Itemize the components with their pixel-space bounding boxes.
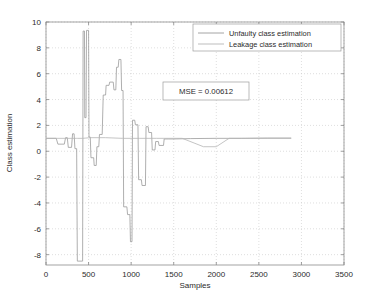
x-tick-label: 3500 <box>335 270 353 279</box>
y-axis-label: Class estimation <box>5 114 14 173</box>
annotations-group: MSE = 0.00612 <box>163 82 249 100</box>
y-tick-label: 4 <box>37 96 42 105</box>
y-axis-tick-labels: -8-6-4-20246810 <box>32 18 41 260</box>
y-tick-label: 6 <box>37 70 42 79</box>
y-tick-label: 8 <box>37 44 42 53</box>
x-tick-label: 0 <box>44 270 49 279</box>
figure-container: -8-6-4-20246810 050010001500200025003000… <box>0 0 368 298</box>
x-tick-label: 1500 <box>165 270 183 279</box>
y-tick-label: -2 <box>34 173 42 182</box>
y-tick-label: -4 <box>34 199 42 208</box>
x-tick-label: 2000 <box>207 270 225 279</box>
x-tick-label: 3000 <box>293 270 311 279</box>
x-axis-tick-labels: 0500100015002000250030003500 <box>44 270 354 279</box>
chart-legend[interactable]: Unfaulty class estimation Leakage class … <box>193 24 341 51</box>
x-tick-label: 2500 <box>250 270 268 279</box>
legend-label-leakage: Leakage class estimation <box>229 40 312 49</box>
y-tick-label: -6 <box>34 225 42 234</box>
x-axis-label: Samples <box>179 281 210 290</box>
mse-annotation-label: MSE = 0.00612 <box>179 87 233 96</box>
legend-label-unfaulty: Unfaulty class estimation <box>229 29 311 38</box>
y-tick-label: 10 <box>32 18 41 27</box>
x-tick-label: 500 <box>82 270 96 279</box>
y-tick-label: 0 <box>37 147 42 156</box>
chart-canvas: -8-6-4-20246810 050010001500200025003000… <box>0 0 368 298</box>
y-tick-label: 2 <box>37 121 42 130</box>
y-tick-label: -8 <box>34 251 42 260</box>
x-tick-label: 1000 <box>122 270 140 279</box>
